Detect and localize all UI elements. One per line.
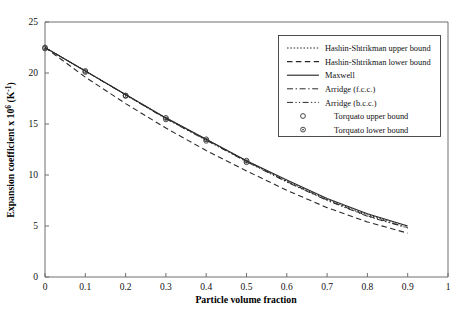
y-tick-label: 25 bbox=[29, 17, 39, 27]
marker-torquato-lower-bound-center bbox=[165, 119, 167, 121]
marker-torquato-lower-bound-center bbox=[205, 140, 207, 142]
marker-torquato-lower-bound-center bbox=[246, 161, 248, 163]
y-tick-label: 0 bbox=[33, 272, 38, 282]
legend-label: Maxwell bbox=[325, 71, 355, 80]
y-axis-title-text: Expansion coefficient x 10 bbox=[5, 109, 16, 218]
x-tick-label: 0.1 bbox=[79, 282, 91, 292]
x-tick-label: 0 bbox=[43, 282, 48, 292]
legend-label: Torquato lower bound bbox=[334, 126, 409, 135]
legend-label: Arridge (b.c.c.) bbox=[325, 99, 377, 108]
y-tick-label: 15 bbox=[29, 119, 39, 129]
legend-label: Torquato upper bound bbox=[334, 112, 409, 121]
legend-swatch-dotted-circle-center bbox=[302, 129, 304, 131]
x-tick-label: 0.3 bbox=[160, 282, 172, 292]
x-tick-label: 0.2 bbox=[120, 282, 132, 292]
legend-label: Arridge (f.c.c.) bbox=[325, 85, 375, 94]
y-axis-ticks: 0510152025 bbox=[29, 17, 50, 282]
x-tick-label: 0.7 bbox=[321, 282, 333, 292]
x-tick-label: 0.5 bbox=[241, 282, 253, 292]
y-tick-label: 5 bbox=[33, 221, 38, 231]
chart-figure: 0510152025 00.10.20.30.40.50.60.70.80.91… bbox=[0, 0, 468, 320]
x-tick-label: 0.9 bbox=[402, 282, 414, 292]
y-axis-title: Expansion coefficient x 106 (K-1) bbox=[4, 82, 17, 218]
y-tick-label: 10 bbox=[29, 170, 39, 180]
expansion-coefficient-chart: 0510152025 00.10.20.30.40.50.60.70.80.91… bbox=[0, 0, 468, 320]
marker-torquato-lower-bound-center bbox=[84, 71, 86, 73]
marker-torquato-lower-bound-center bbox=[125, 95, 127, 97]
legend: Hashin-Shtrikman upper boundHashin-Shtri… bbox=[279, 36, 441, 137]
x-tick-label: 0.6 bbox=[281, 282, 293, 292]
y-tick-label: 20 bbox=[29, 68, 39, 78]
x-tick-label: 0.8 bbox=[361, 282, 373, 292]
x-axis-title: Particle volume fraction bbox=[195, 294, 297, 305]
legend-label: Hashin-Shtrikman lower bound bbox=[325, 58, 431, 67]
legend-label: Hashin-Shtrikman upper bound bbox=[325, 44, 431, 53]
x-tick-label: 0.4 bbox=[200, 282, 212, 292]
x-axis-ticks: 00.10.20.30.40.50.60.70.80.91 bbox=[43, 273, 451, 292]
x-tick-label: 1 bbox=[446, 282, 451, 292]
marker-torquato-lower-bound-center bbox=[44, 48, 46, 50]
